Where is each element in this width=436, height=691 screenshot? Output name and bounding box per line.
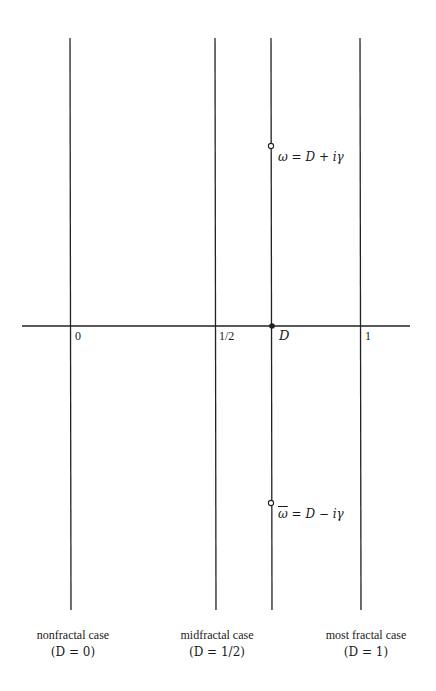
case-nonfractal: nonfractal case (D = 0): [18, 627, 128, 661]
case-title: most fractal case: [306, 627, 426, 644]
case-title: nonfractal case: [18, 627, 128, 644]
line-re-1: [360, 38, 361, 610]
line-re-0: [70, 38, 71, 610]
omega-label: ω = D + iγ: [278, 150, 344, 164]
omega-bar-label: ω = D − iγ: [278, 507, 344, 521]
tick-label-0: 0: [75, 329, 81, 344]
omega-bar-symbol: ω: [278, 507, 288, 521]
tick-label-1: 1: [365, 329, 371, 344]
tick-label-D: D: [279, 328, 289, 343]
D-point: [269, 323, 275, 329]
tick-label-half: 1/2: [219, 329, 234, 344]
omega-bar-point: [268, 500, 273, 505]
case-title: midfractal case: [162, 627, 272, 644]
line-re-half: [215, 38, 216, 610]
case-most-fractal: most fractal case (D = 1): [306, 627, 426, 661]
diagram-canvas: [0, 0, 436, 691]
case-condition: (D = 1/2): [162, 644, 272, 661]
case-condition: (D = 1): [306, 644, 426, 661]
omega-point: [268, 143, 273, 148]
case-midfractal: midfractal case (D = 1/2): [162, 627, 272, 661]
case-condition: (D = 0): [18, 644, 128, 661]
omega-bar-rest: = D − iγ: [288, 507, 344, 521]
